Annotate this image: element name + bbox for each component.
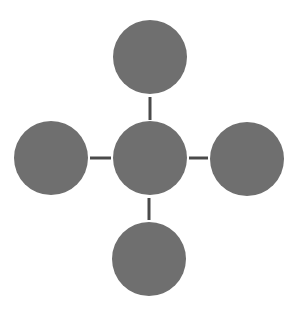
node-bottom (112, 222, 186, 296)
node-left (14, 121, 88, 195)
hub-spoke-diagram (0, 0, 296, 309)
node-right (210, 122, 284, 196)
node-top (113, 20, 187, 94)
node-center (113, 121, 187, 195)
nodes (14, 20, 284, 296)
